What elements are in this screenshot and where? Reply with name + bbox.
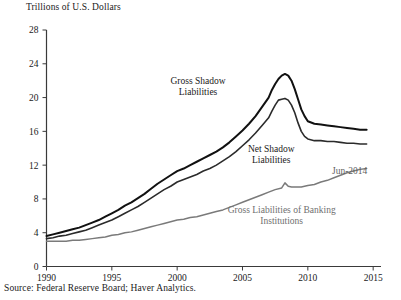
y-tick-label: 28	[29, 25, 39, 35]
x-tick-group: 199019952000200520102015	[37, 267, 383, 283]
series-group	[47, 74, 367, 241]
y-tick-label: 0	[34, 262, 39, 272]
x-axis-group: 199019952000200520102015	[37, 267, 383, 283]
chart-figure: Trillions of U.S. Dollars 0481216202428 …	[0, 0, 401, 300]
x-tick-label: 2005	[233, 273, 252, 283]
y-tick-label: 4	[34, 228, 39, 238]
y-tick-label: 20	[29, 93, 39, 103]
x-tick-label: 1995	[102, 273, 121, 283]
banking-label-line1: Gross Liabilities of Banking	[228, 205, 336, 215]
banking-label-line2: Institutions	[260, 216, 303, 226]
y-axis-group: 0481216202428	[29, 25, 47, 272]
gross-shadow-label-line2: Liabilities	[179, 87, 218, 97]
y-tick-group: 0481216202428	[29, 25, 47, 272]
source-note: Source: Federal Reserve Board; Haver Ana…	[4, 283, 196, 293]
x-tick-label: 1990	[37, 273, 56, 283]
y-tick-label: 24	[29, 59, 39, 69]
jun-2014-annotation: Jun-2014	[332, 166, 368, 176]
line-chart-plot: 0481216202428 199019952000200520102015 G…	[0, 0, 401, 300]
y-tick-label: 12	[29, 161, 39, 171]
x-tick-label: 2010	[298, 273, 317, 283]
y-tick-label: 16	[29, 127, 39, 137]
net-shadow-label-line1: Net Shadow	[248, 144, 295, 154]
net-shadow-label-line2: Liabilities	[252, 155, 291, 165]
y-tick-label: 8	[34, 194, 39, 204]
y-axis-title: Trillions of U.S. Dollars	[26, 2, 121, 12]
series-line	[47, 98, 367, 238]
x-tick-label: 2015	[364, 273, 383, 283]
x-tick-label: 2000	[168, 273, 187, 283]
gross-shadow-label-line1: Gross Shadow	[170, 76, 225, 86]
